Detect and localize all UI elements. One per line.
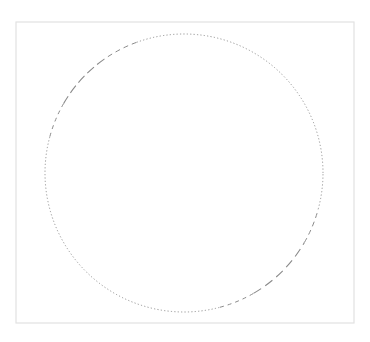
circle-arc-dashed [220,293,254,307]
figure-canvas [0,0,370,342]
dashed-circle [45,34,323,312]
circle-arc-dashed [50,104,64,138]
circle-arc-dotted [318,173,323,209]
circle-arc-dashed [304,209,318,243]
circle-arc-dashed [104,42,136,59]
figure-frame [16,22,354,323]
circle-arc-dotted [136,34,323,173]
circle-arc-dotted [45,137,220,312]
circle-arc-dashed [254,243,305,294]
circle-arc-dashed [64,59,105,103]
